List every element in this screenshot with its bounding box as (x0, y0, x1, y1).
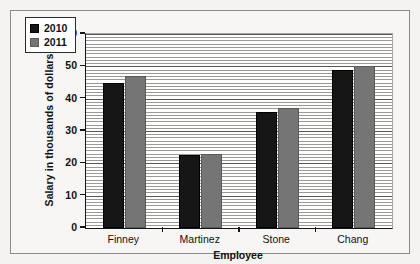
bar-finney-2011 (125, 76, 146, 228)
x-tick-mark (238, 227, 240, 232)
bar-chang-2011 (354, 66, 375, 228)
x-tick-label-finney: Finney (107, 233, 139, 245)
y-tick-label: 50 (55, 60, 77, 71)
y-tick-mark (80, 226, 85, 228)
legend-label-2011: 2011 (44, 37, 67, 48)
bars-layer (86, 34, 392, 228)
legend-item-2010: 2010 (30, 21, 67, 35)
bar-finney-2010 (103, 83, 124, 229)
bar-stone-2011 (278, 108, 299, 228)
chart-legend: 2010 2011 (25, 17, 76, 53)
y-tick-mark (80, 65, 85, 67)
legend-label-2010: 2010 (44, 23, 67, 34)
x-tick-mark (315, 227, 317, 232)
legend-swatch-icon-2011 (30, 38, 39, 47)
y-tick-label: 10 (55, 189, 77, 200)
y-tick-label: 40 (55, 92, 77, 103)
chart-frame: 0102030405060 FinneyMartinezStoneChangEm… (10, 10, 410, 254)
legend-item-2011: 2011 (30, 35, 67, 49)
bar-martinez-2011 (201, 154, 222, 228)
bar-chang-2010 (332, 70, 353, 228)
bar-martinez-2010 (179, 155, 200, 228)
y-axis-title: Salary in thousands of dollars (43, 54, 55, 207)
y-tick-label: 30 (55, 125, 77, 136)
x-tick-label-chang: Chang (337, 233, 368, 245)
legend-swatch-icon-2010 (30, 24, 39, 33)
x-tick-mark (162, 227, 164, 232)
y-tick-label: 0 (55, 222, 77, 233)
y-tick-mark (80, 194, 85, 196)
y-tick-mark (80, 97, 85, 99)
x-axis-title: Employee (213, 249, 263, 261)
x-tick-label-martinez: Martinez (180, 233, 220, 245)
plot-area (85, 33, 393, 229)
chart-figure: 29. 0102030405060 FinneyMartinezStoneCha… (0, 0, 420, 264)
y-tick-label: 20 (55, 157, 77, 168)
y-tick-mark (80, 129, 85, 131)
x-tick-label-stone: Stone (263, 233, 290, 245)
y-tick-mark (80, 32, 85, 34)
bar-stone-2010 (256, 112, 277, 228)
y-tick-mark (80, 162, 85, 164)
